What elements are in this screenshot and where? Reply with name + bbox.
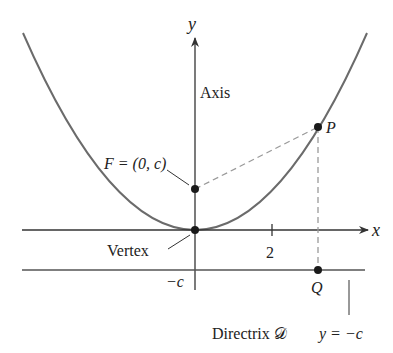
point-q bbox=[314, 266, 322, 274]
axis-label: Axis bbox=[200, 84, 230, 101]
x-axis-label: x bbox=[371, 220, 380, 240]
point-q-label: Q bbox=[311, 279, 323, 296]
focus-label: F = (0, c) bbox=[103, 155, 166, 173]
parabola-diagram: y x Axis F = (0, c) Vertex 2 −c P Q Dire… bbox=[0, 0, 393, 353]
point-p-label: P bbox=[325, 119, 336, 136]
point-p bbox=[314, 123, 322, 131]
focus-point bbox=[191, 185, 199, 193]
focus-pointer bbox=[167, 170, 189, 185]
vertex-pointer bbox=[168, 235, 190, 249]
y-axis-label: y bbox=[186, 14, 196, 34]
neg-c-label: −c bbox=[166, 273, 184, 290]
vertex-point bbox=[191, 226, 199, 234]
vertex-label: Vertex bbox=[107, 242, 149, 259]
directrix-name-label: Directrix 𝒟 bbox=[212, 325, 287, 342]
x-tick-label: 2 bbox=[266, 244, 274, 261]
directrix-equation-label: y = −c bbox=[317, 325, 363, 343]
